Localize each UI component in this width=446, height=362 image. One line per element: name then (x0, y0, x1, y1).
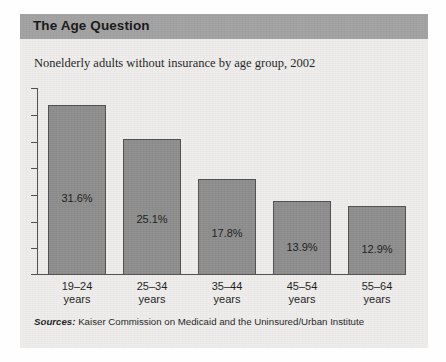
bar-25-34[interactable] (123, 139, 181, 275)
bar-55-64[interactable] (348, 206, 406, 275)
category-range-19-24: 19–24 (38, 280, 116, 293)
chart-plot-area: 31.6% 19–24 years 25.1% 25–34 years 17.8… (20, 14, 428, 348)
bar-value-45-54: 13.9% (273, 241, 331, 253)
bar-45-54[interactable] (273, 201, 331, 275)
page-root: The Age Question Nonelderly adults witho… (0, 0, 446, 362)
bar-value-35-44: 17.8% (198, 227, 256, 239)
category-unit-35-44: years (188, 293, 266, 306)
category-range-35-44: 35–44 (188, 280, 266, 293)
figure-card: The Age Question Nonelderly adults witho… (20, 14, 428, 348)
bar-19-24[interactable] (48, 105, 106, 275)
category-unit-19-24: years (38, 293, 116, 306)
category-unit-45-54: years (263, 293, 341, 306)
category-unit-55-64: years (338, 293, 416, 306)
category-unit-25-34: years (113, 293, 191, 306)
category-label-55-64: 55–64 years (338, 280, 416, 306)
bar-value-55-64: 12.9% (348, 243, 406, 255)
bar-series: 31.6% 19–24 years 25.1% 25–34 years 17.8… (20, 14, 428, 348)
category-range-55-64: 55–64 (338, 280, 416, 293)
category-label-35-44: 35–44 years (188, 280, 266, 306)
bar-value-19-24: 31.6% (48, 192, 106, 204)
category-range-45-54: 45–54 (263, 280, 341, 293)
source-note: Sources: Kaiser Commission on Medicaid a… (34, 316, 364, 327)
category-label-19-24: 19–24 years (38, 280, 116, 306)
category-label-45-54: 45–54 years (263, 280, 341, 306)
category-label-25-34: 25–34 years (113, 280, 191, 306)
category-range-25-34: 25–34 (113, 280, 191, 293)
bar-value-25-34: 25.1% (123, 213, 181, 225)
source-text: Kaiser Commission on Medicaid and the Un… (78, 316, 364, 327)
source-label: Sources: (34, 316, 78, 327)
